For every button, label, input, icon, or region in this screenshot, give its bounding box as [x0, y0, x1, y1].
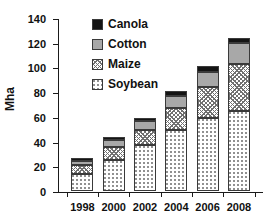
- bar-segment-cotton-2002: [134, 121, 156, 131]
- y-tick: [53, 68, 58, 69]
- y-tick-label: 40: [34, 137, 46, 149]
- x-tick: [129, 192, 130, 197]
- bar-segment-maize-2008: [228, 64, 250, 111]
- bar-segment-cotton-1998: [71, 161, 93, 165]
- x-tick: [67, 192, 68, 197]
- bar-segment-soybean-2002: [134, 145, 156, 191]
- legend-item-soybean: Soybean: [92, 74, 158, 94]
- x-tick-label: 2006: [195, 201, 219, 213]
- bar-segment-soybean-2006: [197, 118, 219, 191]
- x-tick-label: 2004: [164, 201, 188, 213]
- y-axis-title: Mha: [3, 69, 17, 129]
- bar-segment-cotton-2004: [165, 96, 187, 108]
- x-tick-label: 2008: [227, 201, 251, 213]
- legend-swatch-cotton-icon: [92, 39, 103, 50]
- y-tick-label: 100: [28, 62, 46, 74]
- legend-label-cotton: Cotton: [108, 37, 147, 51]
- y-tick-label: 20: [34, 161, 46, 173]
- bar-1998: [71, 158, 93, 191]
- legend-swatch-maize-icon: [92, 59, 103, 70]
- y-tick: [53, 143, 58, 144]
- x-tick: [161, 192, 162, 197]
- y-tick-label: 140: [28, 13, 46, 25]
- bar-segment-cotton-2000: [103, 140, 125, 146]
- bar-2006: [197, 66, 219, 191]
- bar-segment-maize-2006: [197, 87, 219, 118]
- y-axis-line: [58, 19, 59, 193]
- bar-segment-canola-2008: [228, 38, 250, 43]
- y-tick: [53, 44, 58, 45]
- bar-2002: [134, 118, 156, 191]
- y-tick-label: 0: [40, 186, 46, 198]
- stacked-bar-chart: Mha 020406080100120140 19982000200220042…: [0, 0, 277, 224]
- y-tick: [53, 93, 58, 94]
- x-tick-label: 2002: [133, 201, 157, 213]
- bar-segment-maize-2004: [165, 108, 187, 130]
- bar-segment-canola-2006: [197, 66, 219, 72]
- legend-label-soybean: Soybean: [108, 77, 158, 91]
- x-tick-label: 2000: [101, 201, 125, 213]
- bar-2008: [228, 38, 250, 191]
- bar-segment-cotton-2008: [228, 43, 250, 64]
- legend-swatch-soybean-icon: [92, 79, 103, 90]
- bar-segment-canola-2000: [103, 137, 125, 141]
- x-tick: [223, 192, 224, 197]
- x-tick: [255, 192, 256, 197]
- legend-label-maize: Maize: [108, 57, 141, 71]
- legend-label-canola: Canola: [108, 17, 148, 31]
- bar-segment-soybean-2004: [165, 130, 187, 191]
- bar-segment-maize-2002: [134, 130, 156, 145]
- x-tick-label: 1998: [70, 201, 94, 213]
- y-tick: [53, 192, 58, 193]
- bar-segment-canola-2002: [134, 118, 156, 120]
- legend-item-canola: Canola: [92, 14, 158, 34]
- y-tick-label: 80: [34, 87, 46, 99]
- chart-legend: Canola Cotton Maize Soybean: [92, 14, 158, 94]
- x-tick: [192, 192, 193, 197]
- y-tick-label: 60: [34, 112, 46, 124]
- bar-segment-soybean-2000: [103, 160, 125, 191]
- bar-2004: [165, 91, 187, 191]
- bar-segment-cotton-2006: [197, 72, 219, 87]
- y-tick: [53, 167, 58, 168]
- bar-segment-soybean-1998: [71, 174, 93, 191]
- bar-segment-maize-1998: [71, 165, 93, 174]
- y-tick: [53, 19, 58, 20]
- plot-area: 020406080100120140 199820002002200420062…: [58, 19, 263, 192]
- y-tick-label: 120: [28, 38, 46, 50]
- y-tick: [53, 118, 58, 119]
- bar-2000: [103, 137, 125, 191]
- bar-segment-canola-2004: [165, 91, 187, 96]
- legend-swatch-canola-icon: [92, 19, 103, 30]
- bar-segment-soybean-2008: [228, 111, 250, 191]
- legend-item-cotton: Cotton: [92, 34, 158, 54]
- x-tick: [98, 192, 99, 197]
- bar-segment-maize-2000: [103, 147, 125, 161]
- legend-item-maize: Maize: [92, 54, 158, 74]
- bar-segment-canola-1998: [71, 158, 93, 162]
